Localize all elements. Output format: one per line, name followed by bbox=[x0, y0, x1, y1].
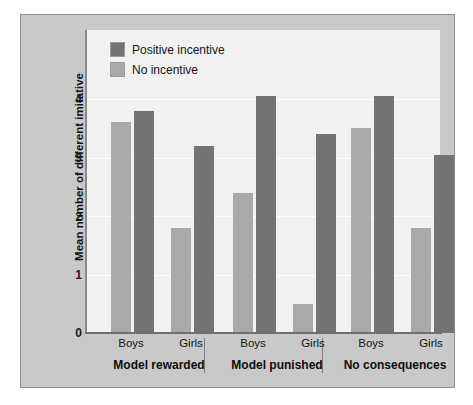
x-axis-baseline bbox=[85, 332, 442, 334]
y-tick-3: 3 bbox=[64, 152, 82, 164]
legend-item-positive-incentive: Positive incentive bbox=[110, 42, 225, 57]
bar-model-rewarded-boys-positive-incentive bbox=[134, 111, 154, 333]
legend-label-positive-incentive: Positive incentive bbox=[132, 44, 225, 56]
chart-screenshot: Mean number of different imitative respo… bbox=[0, 0, 473, 405]
legend-swatch-positive-incentive bbox=[110, 42, 125, 57]
bar-model-punished-girls-positive-incentive bbox=[316, 134, 336, 333]
x-grouplabel-no-consequences: No consequences bbox=[344, 358, 447, 372]
x-sublabel-no-consequences-boys: Boys bbox=[358, 337, 384, 349]
x-sublabel-model-punished-girls: Girls bbox=[301, 337, 325, 349]
bar-model-rewarded-girls-no-incentive bbox=[171, 228, 191, 333]
x-sublabel-no-consequences-girls: Girls bbox=[419, 337, 443, 349]
x-grouplabel-model-rewarded: Model rewarded bbox=[113, 358, 204, 372]
y-axis-title-wrapper: Mean number of different imitative respo… bbox=[30, 60, 64, 310]
bar-model-punished-boys-no-incentive bbox=[233, 193, 253, 333]
y-tick-1: 1 bbox=[64, 269, 82, 281]
bar-no-consequences-boys-no-incentive bbox=[351, 128, 371, 333]
bar-no-consequences-girls-positive-incentive bbox=[434, 155, 454, 333]
y-tick-2: 2 bbox=[64, 211, 82, 223]
legend-swatch-no-incentive bbox=[110, 62, 125, 77]
legend-label-no-incentive: No incentive bbox=[132, 64, 198, 76]
chart-legend: Positive incentive No incentive bbox=[110, 42, 225, 77]
bar-model-rewarded-boys-no-incentive bbox=[111, 122, 131, 333]
x-grouplabel-model-punished: Model punished bbox=[231, 358, 322, 372]
x-sublabel-model-rewarded-girls: Girls bbox=[179, 337, 203, 349]
bar-model-punished-boys-positive-incentive bbox=[256, 96, 276, 333]
x-axis-labels: Boys Girls Boys Girls Boys Girls Model r… bbox=[0, 337, 473, 397]
y-tick-4: 4 bbox=[64, 93, 82, 105]
bar-model-punished-girls-no-incentive bbox=[293, 304, 313, 333]
x-sublabel-model-punished-boys: Boys bbox=[240, 337, 266, 349]
bar-no-consequences-boys-positive-incentive bbox=[374, 96, 394, 333]
x-sublabel-model-rewarded-boys: Boys bbox=[118, 337, 144, 349]
bar-no-consequences-girls-no-incentive bbox=[411, 228, 431, 333]
legend-item-no-incentive: No incentive bbox=[110, 62, 225, 77]
bar-model-rewarded-girls-positive-incentive bbox=[194, 146, 214, 333]
